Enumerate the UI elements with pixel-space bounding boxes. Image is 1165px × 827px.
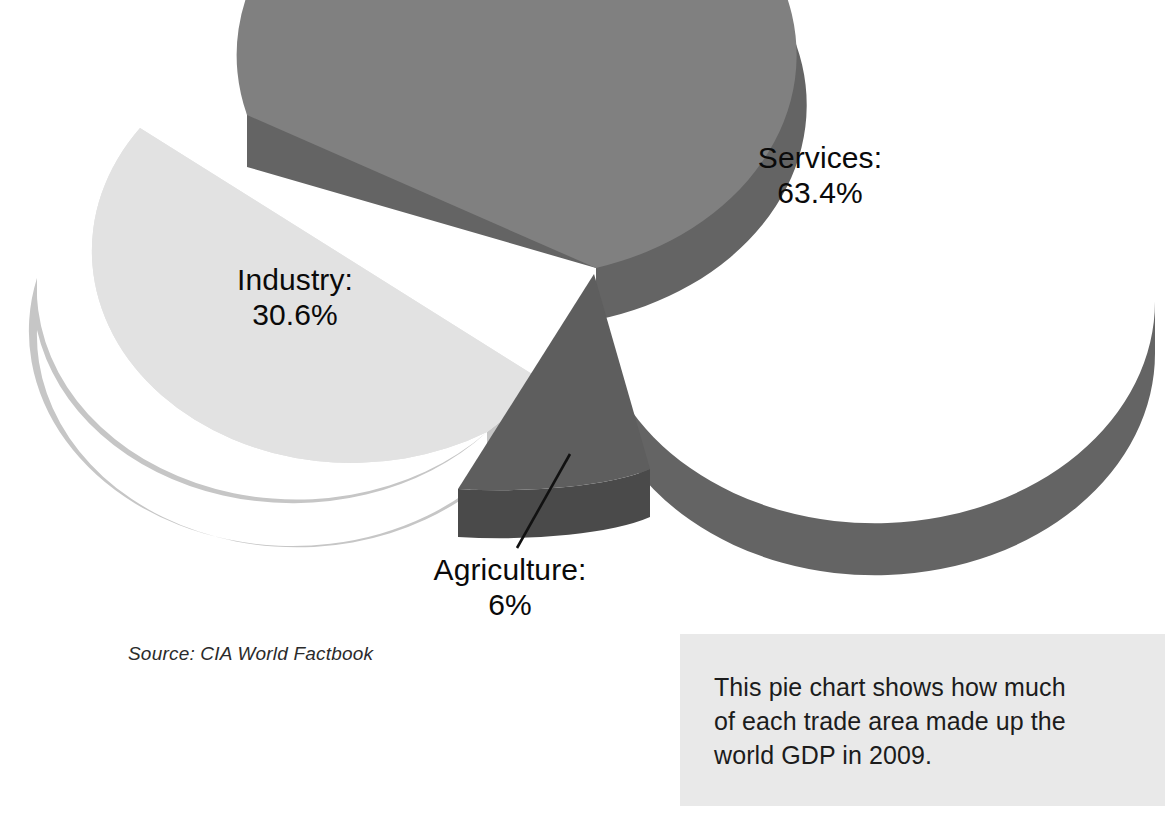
slice-label-industry-value: 30.6% (175, 297, 415, 332)
slice-label-agriculture-name: Agriculture: (395, 552, 625, 587)
slice-label-services-value: 63.4% (700, 175, 940, 210)
pie-slice-services-rim (596, 300, 1155, 575)
caption-line-1: This pie chart shows how much (714, 673, 1066, 701)
caption-line-2: of each trade area made up the (714, 707, 1066, 735)
slice-label-industry-name: Industry: (175, 262, 415, 297)
slice-label-agriculture-value: 6% (395, 587, 625, 622)
caption-line-3: world GDP in 2009. (714, 741, 932, 769)
caption-box: This pie chart shows how much of each tr… (680, 634, 1165, 806)
slice-label-services: Services: 63.4% (700, 140, 940, 210)
slice-label-agriculture: Agriculture: 6% (395, 552, 625, 622)
slice-label-industry: Industry: 30.6% (175, 262, 415, 332)
pie-chart-figure: Services: 63.4% Industry: 30.6% Agricult… (0, 0, 1165, 827)
caption-text: This pie chart shows how much of each tr… (714, 670, 1131, 772)
source-note: Source: CIA World Factbook (128, 643, 373, 665)
slice-label-services-name: Services: (700, 140, 940, 175)
